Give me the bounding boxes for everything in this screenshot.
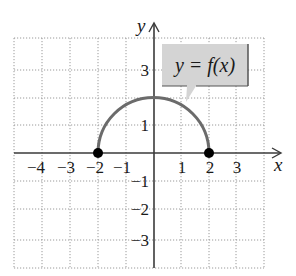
x-tick-m2: −2: [86, 158, 104, 177]
y-tick-m3: −3: [131, 231, 149, 250]
y-tick-m1: −1: [131, 172, 149, 191]
x-axis: [14, 148, 281, 158]
x-tick-m3: −3: [57, 158, 75, 177]
y-axis: [149, 23, 159, 268]
x-tick-m4: −4: [27, 158, 46, 177]
function-callout: y = f(x): [162, 44, 248, 102]
y-axis-label: y: [135, 15, 146, 36]
endpoint-left: [93, 148, 103, 158]
x-tick-m1: −1: [113, 158, 131, 177]
y-tick-p3: 3: [141, 61, 150, 80]
endpoint-right: [204, 148, 214, 158]
x-tick-p1: 1: [178, 158, 187, 177]
x-axis-label: x: [273, 154, 283, 175]
graph-figure: y = f(x) y x −4 −3 −2 −1 1 2 3 3 1 −1 −2…: [0, 0, 296, 276]
y-tick-labels: 3 1 −1 −2 −3: [131, 61, 149, 250]
y-tick-m2: −2: [131, 200, 149, 219]
x-tick-p3: 3: [233, 158, 242, 177]
y-tick-p1: 1: [141, 116, 150, 135]
callout-label: y = f(x): [173, 54, 235, 77]
x-tick-p2: 2: [206, 158, 215, 177]
